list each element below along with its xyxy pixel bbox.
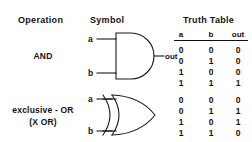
and-gate-body xyxy=(116,33,154,79)
truth-table-cell: 0 xyxy=(227,96,249,105)
logic-gate-reference-diagram: Operation Symbol Truth Table a b out AND… xyxy=(0,0,252,142)
truth-table-cell: 0 xyxy=(227,57,249,66)
truth-table-cell: 0 xyxy=(227,46,249,55)
truth-table-cell: 0 xyxy=(203,46,219,55)
and-gate-symbol xyxy=(97,33,164,79)
truth-table-cell: 1 xyxy=(203,57,219,66)
xor-gate-symbol xyxy=(97,95,155,135)
truth-table-cell: 1 xyxy=(203,79,219,88)
truth-table-cell: 0 xyxy=(173,96,189,105)
xor-gate-inner-arc xyxy=(112,95,119,135)
truth-table-cell: 1 xyxy=(173,79,189,88)
truth-table-cell: 0 xyxy=(173,46,189,55)
truth-table-cell: 1 xyxy=(227,118,249,127)
truth-table-cell: 0 xyxy=(203,96,219,105)
truth-table-cell: 1 xyxy=(173,129,189,138)
truth-table-cell: 0 xyxy=(173,107,189,116)
truth-table-cell: 1 xyxy=(173,118,189,127)
truth-table-cell: 1 xyxy=(227,79,249,88)
xor-gate-outer-arc xyxy=(103,95,110,135)
truth-table-cell: 0 xyxy=(203,68,219,77)
truth-table-cell: 0 xyxy=(203,118,219,127)
truth-table-cell: 0 xyxy=(173,57,189,66)
truth-table-cell: 0 xyxy=(227,129,249,138)
truth-table-cell: 1 xyxy=(203,129,219,138)
truth-table-cell: 0 xyxy=(227,68,249,77)
truth-table-cell: 1 xyxy=(203,107,219,116)
truth-table-cell: 1 xyxy=(173,68,189,77)
truth-table-cell: 1 xyxy=(227,107,249,116)
